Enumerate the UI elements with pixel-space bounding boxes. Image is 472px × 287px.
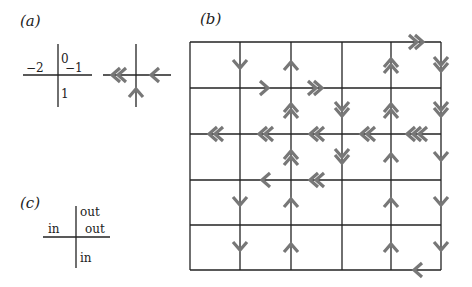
panel-a-index-label: 1 bbox=[61, 87, 69, 101]
panel-c-direction-label: in bbox=[48, 222, 60, 236]
panel-c-direction-label: in bbox=[80, 251, 92, 265]
panel-a-label: (a) bbox=[20, 12, 41, 30]
panel-c-label: (c) bbox=[20, 194, 40, 212]
panel-b-grid bbox=[190, 35, 448, 277]
panel-c-direction-label: out bbox=[85, 222, 105, 236]
panel-c-direction-label: out bbox=[80, 205, 100, 219]
panel-b-label: (b) bbox=[200, 10, 221, 28]
diagram-canvas: (a) (b) (c) 0−2−11 outinoutin bbox=[0, 0, 472, 287]
panel-a: 0−2−11 bbox=[23, 44, 171, 107]
panel-a-index-label: −1 bbox=[65, 61, 83, 75]
panel-a-index-label: −2 bbox=[26, 61, 44, 75]
panel-c: outinoutin bbox=[43, 205, 110, 268]
